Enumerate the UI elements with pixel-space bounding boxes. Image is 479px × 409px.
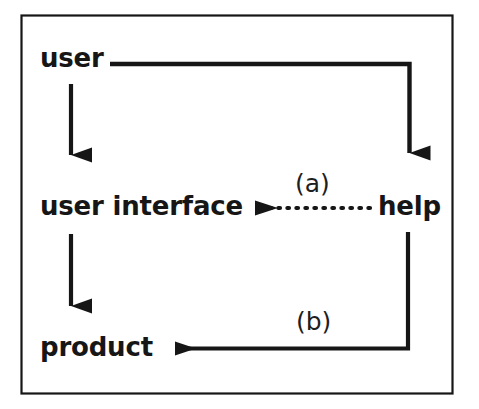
edge-label-a: (a) <box>295 171 330 196</box>
node-label-user: user <box>40 45 104 71</box>
edge-user-to-help <box>110 64 410 153</box>
figure-container: user interface (dotted) --> user user in… <box>0 0 479 409</box>
edge-help-to-product <box>175 232 408 349</box>
node-label-user-interface: user interface <box>40 193 243 219</box>
node-label-help: help <box>378 193 441 219</box>
node-label-product: product <box>40 334 153 360</box>
edge-label-b: (b) <box>296 309 331 334</box>
